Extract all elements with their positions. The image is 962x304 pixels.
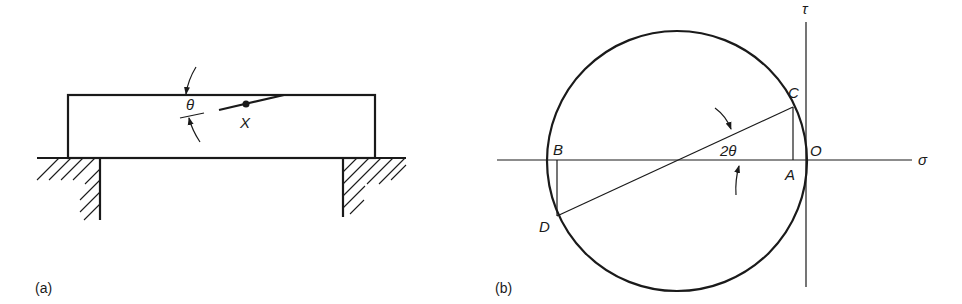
- theta-arrow-top: [186, 67, 196, 94]
- theta-arrow-bottom: [189, 118, 200, 142]
- two-theta-arrow-top: [715, 108, 731, 129]
- point-a-label: A: [784, 166, 795, 183]
- theta-tick: [180, 113, 204, 118]
- two-theta-label: 2θ: [719, 142, 736, 159]
- beam: [68, 95, 375, 158]
- point-c-label: C: [788, 84, 799, 101]
- sigma-axis-label: σ: [918, 151, 928, 168]
- right-support: [343, 158, 406, 217]
- tau-axis-label: τ: [802, 0, 809, 17]
- figure-a-beam-diagram: X θ (a): [35, 67, 406, 296]
- inclined-plane-line: [219, 95, 284, 110]
- left-support: [37, 158, 100, 220]
- point-o-label: O: [810, 142, 822, 159]
- figure-b-caption: (b): [495, 280, 512, 296]
- two-theta-arrow-bottom: [736, 166, 739, 195]
- diagram-canvas: X θ (a) σ τ 2θ C A O B D (b): [0, 0, 962, 304]
- figure-b-mohr-circle: σ τ 2θ C A O B D (b): [495, 0, 928, 296]
- figure-a-caption: (a): [35, 280, 52, 296]
- point-x-label: X: [239, 114, 251, 131]
- point-d-label: D: [539, 218, 550, 235]
- point-x-marker: [243, 101, 250, 108]
- theta-label: θ: [186, 96, 194, 113]
- point-b-label: B: [553, 141, 563, 158]
- diameter-dc: [557, 107, 793, 216]
